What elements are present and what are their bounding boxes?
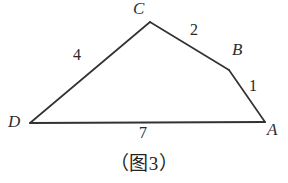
- vertex-label-B: B: [232, 41, 242, 58]
- edge-DA: [30, 122, 265, 123]
- vertex-label-A: A: [267, 121, 277, 138]
- edge-BA: [229, 70, 265, 122]
- caption-paren-open: （: [110, 152, 130, 174]
- edge-length-BA: 1: [249, 78, 257, 94]
- vertex-label-C: C: [133, 0, 144, 17]
- vertex-label-D: D: [8, 113, 20, 130]
- geometry-figure: D C B A 4 2 1 7 （图3）: [0, 0, 288, 183]
- caption-paren-close: ）: [159, 152, 179, 174]
- figure-caption: （图3）: [0, 148, 288, 175]
- edge-length-DC: 4: [73, 47, 81, 63]
- edge-DC: [30, 22, 150, 123]
- edge-length-CB: 2: [190, 22, 198, 38]
- edge-length-DA: 7: [139, 125, 147, 141]
- caption-number: 3: [149, 153, 159, 174]
- caption-word: 图: [129, 152, 149, 174]
